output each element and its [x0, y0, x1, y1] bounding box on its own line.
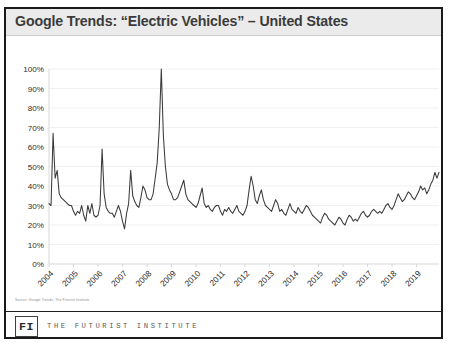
y-tick-20%: 20% — [28, 221, 44, 230]
trends-line-chart: 0%10%20%30%40%50%60%70%80%90%100% 200420… — [6, 36, 441, 304]
chart-plot-region: 0%10%20%30%40%50%60%70%80%90%100% 200420… — [6, 36, 441, 304]
y-tick-40%: 40% — [28, 182, 44, 191]
x-tick-2017: 2017 — [354, 268, 374, 288]
gridlines-group — [49, 69, 439, 264]
x-tick-2019: 2019 — [403, 268, 423, 288]
x-tick-2010: 2010 — [182, 268, 202, 288]
x-tick-2016: 2016 — [329, 268, 349, 288]
y-tick-60%: 60% — [28, 143, 44, 152]
organization-name: THE FUTURIST INSTITUTE — [47, 322, 199, 330]
y-tick-30%: 30% — [28, 202, 44, 211]
x-axis-tick-labels: 2004200520062007200820092010201120122013… — [35, 268, 423, 288]
x-tick-2013: 2013 — [256, 268, 276, 288]
y-tick-90%: 90% — [28, 85, 44, 94]
y-tick-70%: 70% — [28, 124, 44, 133]
title-band: Google Trends: “Electric Vehicles” – Uni… — [6, 9, 441, 36]
x-tick-2005: 2005 — [60, 268, 80, 288]
page-title: Google Trends: “Electric Vehicles” – Uni… — [15, 13, 348, 29]
x-tick-2006: 2006 — [84, 268, 104, 288]
x-tick-2018: 2018 — [378, 268, 398, 288]
series-line-electric-vehicles — [49, 69, 439, 229]
x-tick-2007: 2007 — [109, 268, 129, 288]
footer: FI THE FUTURIST INSTITUTE — [6, 312, 441, 339]
y-tick-100%: 100% — [23, 65, 44, 74]
futurist-institute-logo: FI — [15, 316, 38, 337]
x-tick-2009: 2009 — [158, 268, 178, 288]
x-tick-2004: 2004 — [35, 268, 55, 288]
x-tick-2014: 2014 — [280, 268, 300, 288]
x-tick-2015: 2015 — [305, 268, 325, 288]
y-tick-50%: 50% — [28, 163, 44, 172]
logo-initials: FI — [16, 317, 37, 336]
y-tick-80%: 80% — [28, 104, 44, 113]
x-tick-2011: 2011 — [207, 268, 227, 288]
y-tick-0%: 0% — [32, 260, 44, 269]
x-axis-tick-marks — [49, 264, 417, 267]
y-tick-10%: 10% — [28, 241, 44, 250]
x-tick-2008: 2008 — [133, 268, 153, 288]
x-tick-2012: 2012 — [231, 268, 251, 288]
y-axis-tick-labels: 0%10%20%30%40%50%60%70%80%90%100% — [23, 65, 44, 269]
chart-card: Google Trends: “Electric Vehicles” – Uni… — [4, 7, 443, 339]
source-note: Source: Google Trends, The Futurist Inst… — [15, 298, 89, 302]
